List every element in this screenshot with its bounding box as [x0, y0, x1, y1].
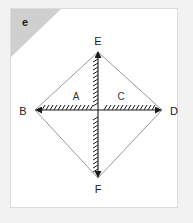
- vertex-label-D: D: [170, 105, 178, 117]
- vertex-label-F: F: [95, 183, 102, 195]
- vertex-label-B: B: [19, 105, 26, 117]
- edge-ED: [98, 52, 162, 110]
- region-label-A: A: [73, 91, 80, 102]
- diagonal-EF-hatching: [93, 59, 98, 172]
- diagonal-EF: [93, 57, 98, 172]
- edge-FB: [35, 110, 98, 178]
- geometry-figure: E B D F A C: [0, 0, 193, 223]
- edge-BE: [35, 52, 98, 110]
- edge-DF: [98, 110, 162, 178]
- region-label-C: C: [117, 91, 124, 102]
- vertex-label-E: E: [94, 35, 101, 47]
- page-background: e: [0, 0, 193, 223]
